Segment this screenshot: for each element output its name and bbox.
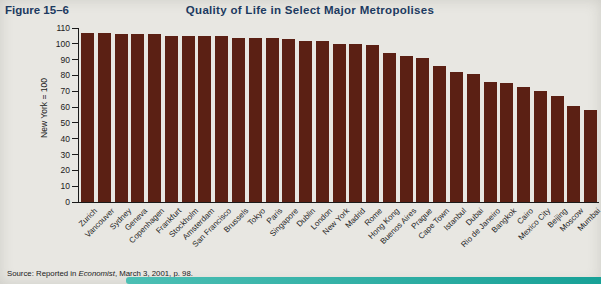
bar-bangkok <box>500 83 513 202</box>
y-tick-mark <box>72 122 78 123</box>
y-tick-label: 100 <box>46 39 70 49</box>
bar-tokyo <box>249 38 262 203</box>
bar-geneva <box>131 34 144 202</box>
bar-san-francisco <box>215 36 228 202</box>
source-prefix: Source: Reported in <box>7 269 79 278</box>
bar-cape-town <box>433 66 446 202</box>
y-tick-mark <box>72 28 78 29</box>
bar-singapore <box>282 39 295 202</box>
plot-area: New York = 100 0102030405060708090100110… <box>78 28 599 203</box>
chart-title: Quality of Life in Select Major Metropol… <box>60 4 560 16</box>
y-tick-mark <box>72 107 78 108</box>
bar-dublin <box>299 41 312 202</box>
y-tick-label: 50 <box>46 118 70 128</box>
bar-new-york <box>333 44 346 202</box>
bar-istanbul <box>450 72 463 202</box>
bar-moscow <box>567 106 580 202</box>
y-tick-label: 110 <box>46 23 70 33</box>
bar-amsterdam <box>198 36 211 202</box>
y-tick-mark <box>72 75 78 76</box>
bar-london <box>316 41 329 202</box>
y-tick-label: 0 <box>46 197 70 207</box>
bar-hong-kong <box>383 53 396 202</box>
bar-rome <box>366 45 379 202</box>
bar-sydney <box>115 34 128 202</box>
bar-zurich <box>81 33 94 202</box>
y-tick-mark <box>72 91 78 92</box>
y-tick-mark <box>72 154 78 155</box>
y-tick-label: 10 <box>46 181 70 191</box>
y-tick-label: 30 <box>46 150 70 160</box>
textbook-figure: Figure 15–6 Quality of Life in Select Ma… <box>0 0 601 284</box>
bar-mexico-city <box>534 91 547 202</box>
y-tick-label: 60 <box>46 102 70 112</box>
bar-stockholm <box>182 36 195 202</box>
bar-paris <box>266 38 279 203</box>
y-tick-mark <box>72 186 78 187</box>
bar-madrid <box>349 44 362 202</box>
y-tick-mark <box>72 59 78 60</box>
y-tick-mark <box>72 138 78 139</box>
bar-rio-de-janeiro <box>484 82 497 202</box>
bar-prague <box>416 58 429 202</box>
y-tick-label: 40 <box>46 134 70 144</box>
bar-beijing <box>551 96 564 202</box>
y-tick-mark <box>72 43 78 44</box>
y-tick-mark <box>72 170 78 171</box>
bar-dubai <box>467 74 480 202</box>
y-tick-label: 20 <box>46 165 70 175</box>
y-tick-mark <box>72 202 78 203</box>
bottom-accent-bar <box>126 277 601 284</box>
source-publication: Economist <box>79 269 115 278</box>
bar-buenos-aires <box>400 56 413 202</box>
bar-brussels <box>232 38 245 203</box>
bar-frankfurt <box>165 36 178 202</box>
bar-cairo <box>517 87 530 202</box>
y-tick-label: 80 <box>46 70 70 80</box>
y-tick-label: 90 <box>46 55 70 65</box>
bar-copenhagen <box>148 34 161 202</box>
bar-mumbai <box>584 110 597 202</box>
y-tick-label: 70 <box>46 86 70 96</box>
bar-vancouver <box>98 33 111 202</box>
